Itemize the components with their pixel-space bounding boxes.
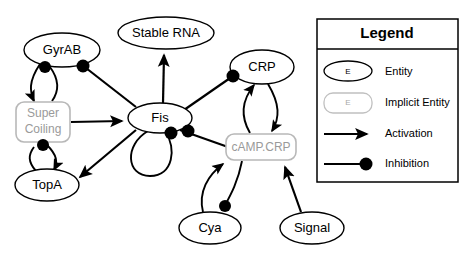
diagram-canvas: GyrAB Stable RNA CRP Super Coiling F — [0, 0, 476, 255]
node-signal[interactable]: Signal — [280, 212, 344, 244]
edge-gyrab-to-supercoiling — [31, 64, 40, 101]
edge-camp-crp-to-cya — [224, 161, 242, 207]
node-super-coiling-label-line2: Coiling — [25, 122, 62, 136]
node-camp-crp-label: cAMP.CRP — [231, 140, 290, 154]
edge-camp-crp-to-crp — [244, 85, 254, 133]
node-crp-label: CRP — [248, 59, 275, 74]
legend-implicit-entity-label: Implicit Entity — [385, 96, 450, 108]
node-gyrab[interactable]: GyrAB — [24, 33, 100, 67]
node-fis-label: Fis — [151, 110, 169, 125]
edge-fis-to-gyrab — [86, 68, 136, 107]
legend: Legend E Entity E Implicit Entity Activa… — [317, 19, 458, 182]
inhibition-dot-fis-gyrab — [77, 60, 90, 73]
edge-supercoiling-to-gyrab — [50, 67, 57, 101]
edge-signal-to-camp-crp — [285, 167, 301, 212]
inhibition-dot-camp-crp-cya — [219, 200, 231, 212]
edge-fis-to-crp — [184, 76, 233, 110]
legend-entity-glyph-letter: E — [345, 67, 350, 76]
legend-entity-label: Entity — [385, 65, 413, 77]
node-layer: GyrAB Stable RNA CRP Super Coiling F — [15, 17, 344, 244]
edge-supercoiling-to-fis — [71, 121, 122, 122]
node-gyrab-label: GyrAB — [43, 42, 81, 57]
inhibition-dot-fis-camp-crp — [182, 125, 195, 138]
legend-activation-label: Activation — [385, 127, 433, 139]
node-topa[interactable]: TopA — [15, 169, 79, 201]
node-signal-label: Signal — [294, 220, 330, 235]
node-stable-rna[interactable]: Stable RNA — [118, 17, 214, 49]
node-topa-label: TopA — [32, 177, 62, 192]
edge-topa-to-supercoiling — [30, 147, 36, 171]
inhibition-dot-topa-supercoiling — [37, 139, 49, 151]
regulatory-network-graph: GyrAB Stable RNA CRP Super Coiling F — [0, 0, 476, 255]
node-stable-rna-label: Stable RNA — [132, 25, 200, 40]
node-crp[interactable]: CRP — [230, 50, 294, 84]
legend-inhibition-label: Inhibition — [385, 157, 429, 169]
legend-title: Legend — [360, 24, 413, 41]
legend-inhibition-dot-icon — [360, 158, 373, 171]
legend-implicit-entity-glyph-letter: E — [345, 98, 350, 107]
node-super-coiling[interactable]: Super Coiling — [16, 102, 70, 142]
edge-supercoiling-to-topa — [47, 145, 56, 170]
node-cya[interactable]: Cya — [179, 212, 241, 244]
node-super-coiling-label-line1: Super — [27, 106, 59, 120]
edge-fis-to-topa — [80, 130, 136, 177]
inhibition-dot-fis-self — [165, 127, 178, 140]
edge-crp-to-camp-crp — [268, 84, 278, 131]
edge-fis-to-stablerna — [163, 55, 164, 103]
edge-fis-self-inhibition — [131, 131, 172, 176]
node-camp-crp[interactable]: cAMP.CRP — [226, 134, 296, 160]
inhibition-dot-supercoiling-gyrab — [39, 61, 51, 73]
node-cya-label: Cya — [198, 220, 222, 235]
inhibition-dot-fis-crp — [227, 70, 240, 83]
